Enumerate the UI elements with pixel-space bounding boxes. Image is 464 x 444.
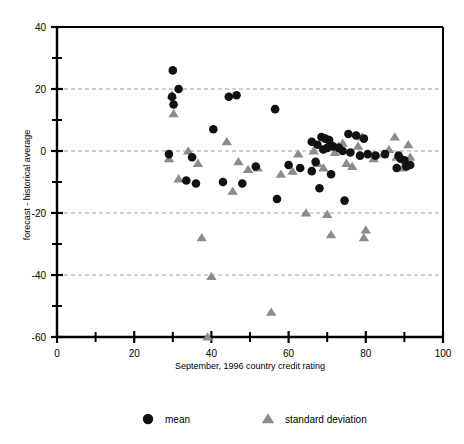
data-point-standard-deviation xyxy=(293,149,303,157)
data-point-mean xyxy=(346,148,355,157)
data-point-mean xyxy=(219,178,228,187)
data-point-mean xyxy=(224,92,233,101)
data-point-standard-deviation xyxy=(359,233,369,241)
data-point-mean xyxy=(363,150,372,159)
data-point-mean xyxy=(315,184,324,193)
y-axis-tick-label: 40 xyxy=(35,22,47,33)
data-point-mean xyxy=(371,151,380,160)
data-point-mean xyxy=(273,195,282,204)
data-point-standard-deviation xyxy=(361,225,371,233)
data-point-mean xyxy=(352,131,361,140)
data-point-mean xyxy=(381,150,390,159)
data-point-standard-deviation xyxy=(276,169,286,177)
legend-label: mean xyxy=(165,414,190,425)
data-point-mean xyxy=(238,179,247,188)
data-point-mean xyxy=(356,151,365,160)
y-axis-tick-label: -20 xyxy=(32,208,47,219)
x-axis-tick-label: 40 xyxy=(206,348,218,359)
data-point-mean xyxy=(296,164,305,173)
data-point-standard-deviation xyxy=(222,137,232,145)
x-axis-tick-label: 100 xyxy=(435,348,452,359)
data-point-mean xyxy=(271,105,280,114)
data-point-mean xyxy=(284,161,293,170)
legend-label: standard deviation xyxy=(285,414,367,425)
x-axis-title: September, 1996 country credit rating xyxy=(175,361,325,371)
data-point-standard-deviation xyxy=(326,230,336,238)
data-point-mean xyxy=(169,66,178,75)
data-point-mean xyxy=(360,134,369,143)
data-point-standard-deviation xyxy=(266,307,276,315)
data-point-standard-deviation xyxy=(353,142,363,150)
chart-legend: meanstandard deviation xyxy=(143,413,367,425)
x-axis: 020406080100 xyxy=(54,331,452,359)
y-axis-tick-label: -60 xyxy=(32,332,47,343)
x-axis-tick-label: 0 xyxy=(54,348,60,359)
data-point-mean xyxy=(174,85,183,94)
data-point-standard-deviation xyxy=(301,208,311,216)
data-point-mean xyxy=(209,125,218,134)
series-standard-deviation xyxy=(164,90,416,340)
data-point-mean xyxy=(169,100,178,109)
data-point-mean xyxy=(188,153,197,162)
data-point-mean xyxy=(182,176,191,185)
grid-lines xyxy=(57,89,443,275)
y-axis-tick-label: -40 xyxy=(32,270,47,281)
series-mean xyxy=(165,66,415,205)
data-point-mean xyxy=(192,179,201,188)
data-point-standard-deviation xyxy=(168,109,178,117)
data-point-mean xyxy=(406,161,415,170)
data-point-standard-deviation xyxy=(233,157,243,165)
legend-marker-mean xyxy=(143,414,153,424)
y-axis-title: forecast - historical average xyxy=(22,130,32,241)
y-axis-tick-label: 20 xyxy=(35,84,47,95)
data-point-mean xyxy=(232,91,241,100)
y-axis-tick-label: 0 xyxy=(40,146,46,157)
y-axis: 40200-20-40-60 xyxy=(32,22,63,343)
plot-frame xyxy=(57,27,443,337)
data-point-standard-deviation xyxy=(322,210,332,218)
data-point-mean xyxy=(168,92,177,101)
data-point-mean xyxy=(340,196,349,205)
data-point-mean xyxy=(165,150,174,159)
data-point-mean xyxy=(307,167,316,176)
data-point-mean xyxy=(344,130,353,139)
x-axis-tick-label: 60 xyxy=(283,348,295,359)
data-point-mean xyxy=(311,158,320,167)
data-point-mean xyxy=(334,144,343,153)
data-point-standard-deviation xyxy=(197,233,207,241)
data-point-mean xyxy=(251,162,260,171)
data-point-standard-deviation xyxy=(403,140,413,148)
chart-canvas: 40200-20-40-60 020406080100 September, 1… xyxy=(0,0,464,444)
data-point-mean xyxy=(392,164,401,173)
x-axis-tick-label: 80 xyxy=(360,348,372,359)
data-point-standard-deviation xyxy=(390,132,400,140)
x-axis-tick-label: 20 xyxy=(129,348,141,359)
data-point-standard-deviation xyxy=(227,187,237,195)
data-point-standard-deviation xyxy=(206,272,216,280)
legend-marker-standard-deviation xyxy=(262,413,274,423)
data-point-mean xyxy=(327,170,336,179)
scatter-plot-figure: 40200-20-40-60 020406080100 September, 1… xyxy=(0,0,464,444)
